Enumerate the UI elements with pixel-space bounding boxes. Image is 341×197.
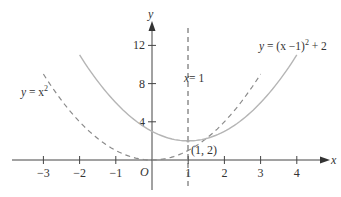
y-tick-label: 12 — [133, 38, 145, 52]
origin-label: O — [140, 165, 149, 179]
graph-canvas: x y −3−2−11234 4812 O (1, 2) x= 1 y = x2… — [0, 0, 341, 197]
x-tick-label: −2 — [73, 166, 86, 180]
x-tick-label: −1 — [109, 166, 122, 180]
x-axis: x — [12, 153, 337, 167]
point-label: (1, 2) — [191, 143, 217, 157]
y-axis: y — [147, 7, 156, 190]
x-tick-label: 4 — [294, 166, 300, 180]
curve2-label: y = (x −1)2 + 2 — [258, 38, 327, 53]
y-tick-label: 8 — [139, 77, 145, 91]
x-tick-label: 2 — [221, 166, 227, 180]
y-ticks: 4812 — [133, 38, 156, 128]
x-tick-label: −3 — [37, 166, 50, 180]
vertex-point — [186, 139, 189, 142]
y-axis-label: y — [147, 7, 154, 21]
vline-label: x= 1 — [183, 72, 204, 84]
y-axis-arrow-icon — [149, 21, 156, 31]
x-tick-label: 3 — [258, 166, 264, 180]
x-axis-label: x — [330, 153, 337, 167]
curve1-label: y = x2 — [20, 84, 48, 99]
x-axis-arrow-icon — [320, 157, 330, 164]
